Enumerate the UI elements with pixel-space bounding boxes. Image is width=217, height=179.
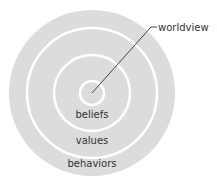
beliefs-label: beliefs (76, 109, 109, 120)
values-label: values (76, 135, 109, 146)
behaviors-label: behaviors (67, 158, 116, 169)
worldview-label: worldview (158, 22, 209, 33)
worldview-diagram: worldview beliefs values behaviors (0, 0, 217, 179)
